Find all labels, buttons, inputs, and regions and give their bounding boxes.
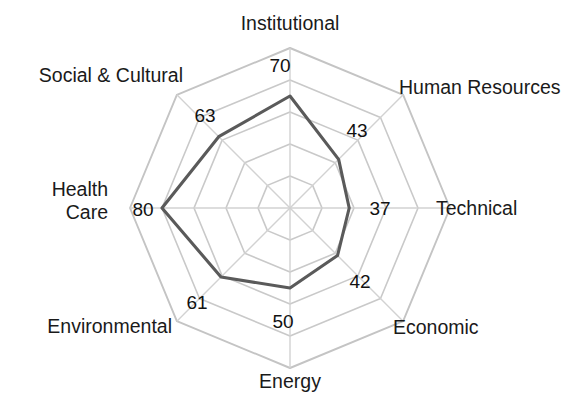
value-label-institutional: 70: [269, 55, 290, 76]
axis-labels-layer: InstitutionalHuman ResourcesTechnicalEco…: [39, 12, 561, 392]
axis-label-energy: Energy: [259, 370, 321, 392]
axis-label-health-care: HealthCare: [52, 178, 108, 223]
radar-chart-figure: 7043374250618063 InstitutionalHuman Reso…: [0, 0, 573, 416]
axis-label-institutional: Institutional: [241, 12, 340, 34]
value-label-environmental: 61: [186, 292, 207, 313]
value-label-technical: 37: [369, 198, 390, 219]
axis-label-technical: Technical: [436, 197, 517, 219]
value-label-human-resources: 43: [346, 120, 367, 141]
value-label-energy: 50: [272, 311, 293, 332]
value-labels-layer: 7043374250618063: [132, 55, 390, 332]
radar-chart-canvas: 7043374250618063 InstitutionalHuman Reso…: [0, 0, 573, 416]
axis-label-human-resources: Human Resources: [399, 76, 561, 98]
axis-label-social-cultural: Social & Cultural: [39, 64, 183, 86]
value-label-social-cultural: 63: [194, 105, 215, 126]
axis-label-environmental: Environmental: [47, 315, 172, 337]
value-label-health-care: 80: [132, 199, 153, 220]
axis-label-economic: Economic: [393, 316, 479, 338]
value-label-economic: 42: [349, 271, 370, 292]
